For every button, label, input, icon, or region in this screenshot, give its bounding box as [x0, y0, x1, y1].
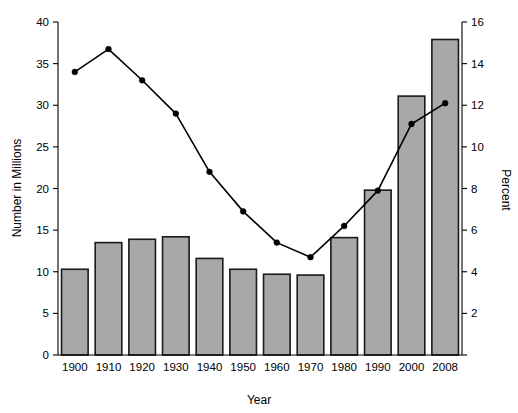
left-tick-label-25: 25 [36, 141, 49, 153]
percent-point-1930 [173, 111, 179, 117]
percent-point-1960 [274, 240, 280, 246]
bar-1990 [365, 190, 392, 355]
right-tick-label-10: 10 [471, 141, 484, 153]
right-tick-label-16: 16 [471, 16, 484, 28]
left-tick-label-5: 5 [43, 307, 49, 319]
x-tick-label-1910: 1910 [96, 361, 122, 373]
percent-point-1980 [341, 223, 347, 229]
x-tick-label-1980: 1980 [331, 361, 357, 373]
chart-container: 0510152025303540 246810121416 1900191019… [0, 0, 518, 413]
bar-1930 [163, 237, 190, 355]
bar-1960 [264, 274, 291, 355]
percent-point-2008 [442, 100, 448, 106]
y-axis-title: Number in Millions [10, 139, 24, 238]
x-tick-label-1960: 1960 [264, 361, 290, 373]
bar-1940 [196, 258, 223, 355]
left-tick-label-15: 15 [36, 224, 49, 236]
right-tick-label-8: 8 [471, 183, 477, 195]
bar-1910 [95, 243, 122, 355]
percent-point-1900 [72, 69, 78, 75]
y2-axis-title: Percent [499, 169, 513, 211]
bar-1970 [297, 275, 324, 355]
bar-1920 [129, 239, 156, 355]
right-tick-label-12: 12 [471, 99, 484, 111]
left-tick-label-20: 20 [36, 183, 49, 195]
x-tick-label-2000: 2000 [399, 361, 425, 373]
percent-point-1920 [139, 77, 145, 83]
x-tick-label-1990: 1990 [365, 361, 391, 373]
x-tick-label-1900: 1900 [62, 361, 88, 373]
bar-1980 [331, 238, 358, 355]
x-tick-label-1970: 1970 [298, 361, 324, 373]
bar-2000 [398, 96, 425, 355]
left-tick-label-0: 0 [43, 349, 49, 361]
percent-point-2000 [409, 121, 415, 127]
right-tick-label-14: 14 [471, 58, 484, 70]
percent-point-1940 [207, 169, 213, 175]
x-tick-label-1950: 1950 [230, 361, 256, 373]
right-tick-label-4: 4 [471, 266, 478, 278]
right-tick-label-6: 6 [471, 224, 477, 236]
percent-point-1990 [375, 188, 381, 194]
percent-point-1910 [106, 46, 112, 52]
x-axis-title: Year [247, 393, 271, 407]
right-tick-label-2: 2 [471, 307, 477, 319]
bar-1900 [62, 269, 89, 355]
dual-axis-bar-line-chart: 0510152025303540 246810121416 1900191019… [0, 0, 518, 413]
percent-point-1970 [308, 254, 314, 260]
bar-1950 [230, 269, 257, 355]
x-tick-label-1940: 1940 [197, 361, 223, 373]
percent-point-1950 [240, 208, 246, 214]
left-tick-label-10: 10 [36, 266, 49, 278]
x-tick-label-1930: 1930 [163, 361, 189, 373]
left-tick-label-35: 35 [36, 58, 49, 70]
left-tick-label-40: 40 [36, 16, 49, 28]
x-tick-label-2008: 2008 [432, 361, 458, 373]
x-tick-label-1920: 1920 [129, 361, 155, 373]
left-tick-label-30: 30 [36, 99, 49, 111]
bar-2008 [432, 39, 459, 355]
